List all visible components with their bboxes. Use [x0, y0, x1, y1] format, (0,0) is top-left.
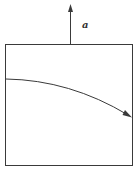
- acceleration-label: a: [82, 19, 88, 30]
- trajectory-curve: [6, 79, 128, 115]
- trajectory-arrowhead-icon: [123, 110, 133, 118]
- physics-diagram: a: [0, 0, 136, 176]
- region-box: [6, 45, 133, 166]
- acceleration-arrowhead-icon: [68, 4, 73, 12]
